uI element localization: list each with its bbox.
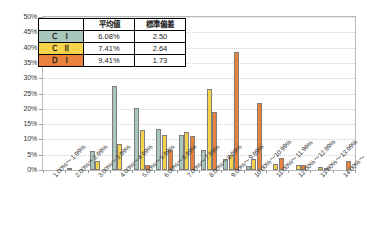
x-tick-mark — [221, 170, 222, 173]
x-tick-mark — [65, 170, 66, 173]
table-header-sd: 標準偏差 — [135, 19, 186, 31]
x-tick-mark — [288, 170, 289, 173]
series-sd-cell: 1.73 — [135, 55, 186, 67]
table-header-row: 平均値 標準偏差 — [39, 19, 186, 31]
x-axis: 1.00%～1.99%2.00%～2.99%3.00%～3.99%4.00%～4… — [43, 172, 355, 229]
y-tick-label: 40% — [24, 44, 37, 52]
x-tick-mark — [333, 170, 334, 173]
table-row: Ｃ Ⅱ7.41%2.64 — [39, 43, 186, 55]
y-tick-mark — [39, 78, 42, 79]
x-tick-mark — [244, 170, 245, 173]
bar — [67, 168, 72, 170]
x-tick-mark — [310, 170, 311, 173]
x-tick-mark — [266, 170, 267, 173]
x-tick-mark — [110, 170, 111, 173]
y-tick-mark — [39, 155, 42, 156]
series-name-swatch-cell: Ｄ Ⅰ — [39, 55, 84, 67]
y-tick-mark — [39, 94, 42, 95]
y-tick-label: 35% — [24, 59, 37, 67]
table-row: Ｄ Ⅰ9.41%1.73 — [39, 55, 186, 67]
x-tick-mark — [355, 170, 356, 173]
y-tick-mark — [39, 139, 42, 140]
stats-legend-table: 平均値 標準偏差 Ｃ Ⅰ6.08%2.50Ｃ Ⅱ7.41%2.64Ｄ Ⅰ9.41… — [38, 18, 186, 67]
y-tick-label: 5% — [27, 151, 37, 159]
y-tick-label: 20% — [24, 105, 37, 113]
series-sd-cell: 2.64 — [135, 43, 186, 55]
y-tick-label: 15% — [24, 120, 37, 128]
series-mean-cell: 7.41% — [84, 43, 135, 55]
x-tick-mark — [43, 170, 44, 173]
table-header-mean: 平均値 — [84, 19, 135, 31]
y-tick-mark — [39, 109, 42, 110]
y-tick-label: 10% — [24, 135, 37, 143]
series-name-swatch-cell: Ｃ Ⅰ — [39, 31, 84, 43]
y-axis: 0%5%10%15%20%25%30%35%40%45%50% — [0, 10, 42, 177]
x-tick-mark — [132, 170, 133, 173]
x-tick-mark — [177, 170, 178, 173]
y-tick-label: 0% — [27, 166, 37, 174]
bar — [257, 103, 262, 170]
y-tick-mark — [39, 170, 42, 171]
series-mean-cell: 6.08% — [84, 31, 135, 43]
table-corner-cell — [39, 19, 84, 31]
series-name-swatch-cell: Ｃ Ⅱ — [39, 43, 84, 55]
x-tick-mark — [154, 170, 155, 173]
y-tick-mark — [39, 124, 42, 125]
y-tick-label: 30% — [24, 74, 37, 82]
x-tick-mark — [88, 170, 89, 173]
y-tick-label: 50% — [24, 13, 37, 21]
y-tick-label: 45% — [24, 28, 37, 36]
table-row: Ｃ Ⅰ6.08%2.50 — [39, 31, 186, 43]
series-sd-cell: 2.50 — [135, 31, 186, 43]
x-tick-mark — [199, 170, 200, 173]
y-tick-label: 25% — [24, 90, 37, 98]
series-mean-cell: 9.41% — [84, 55, 135, 67]
